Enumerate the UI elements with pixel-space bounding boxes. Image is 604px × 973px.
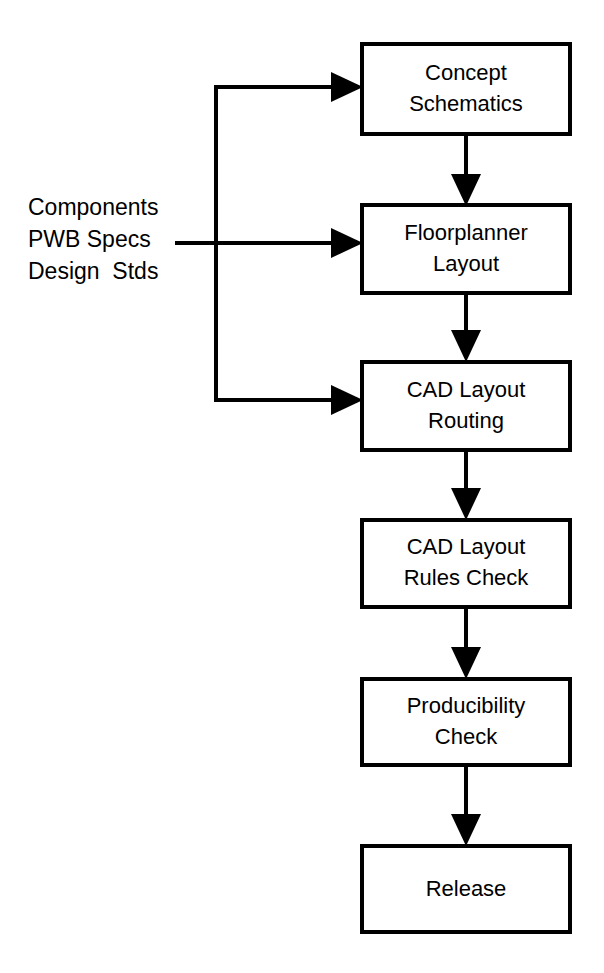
node-concept-schematics-line-2: Schematics bbox=[409, 91, 523, 116]
node-cad-layout-routing[interactable]: CAD Layout Routing bbox=[362, 362, 570, 450]
node-cad-layout-rules-check-line-2: Rules Check bbox=[404, 565, 530, 590]
node-floorplanner-layout-line-1: Floorplanner bbox=[404, 220, 528, 245]
flowchart-diagram: Components PWB Specs Design Stds bbox=[0, 0, 604, 973]
node-cad-layout-routing-box[interactable] bbox=[362, 362, 570, 450]
node-cad-layout-rules-check-line-1: CAD Layout bbox=[407, 534, 526, 559]
node-floorplanner-layout-line-2: Layout bbox=[433, 251, 499, 276]
input-label-line-1: Components bbox=[28, 194, 158, 220]
arrowhead-rules-check-to-producibility bbox=[451, 647, 481, 679]
input-label-line-2: PWB Specs bbox=[28, 226, 151, 252]
node-cad-layout-rules-check[interactable]: CAD Layout Rules Check bbox=[362, 520, 570, 607]
design-inputs-label: Components PWB Specs Design Stds bbox=[28, 194, 158, 284]
node-producibility-check-line-1: Producibility bbox=[407, 693, 526, 718]
node-floorplanner-layout-box[interactable] bbox=[362, 205, 570, 293]
node-release[interactable]: Release bbox=[362, 846, 570, 932]
flowchart-canvas: Components PWB Specs Design Stds bbox=[0, 0, 604, 973]
arrowhead-producibility-to-release bbox=[451, 814, 481, 846]
arrowhead-inputs-to-concept-schematics bbox=[331, 72, 363, 102]
arrowhead-floorplanner-to-routing bbox=[451, 330, 481, 362]
arrowhead-inputs-to-cad-layout-routing bbox=[331, 385, 363, 415]
node-cad-layout-routing-line-2: Routing bbox=[428, 408, 504, 433]
node-producibility-check-line-2: Check bbox=[435, 724, 498, 749]
arrowhead-concept-to-floorplanner bbox=[451, 174, 481, 206]
node-concept-schematics[interactable]: Concept Schematics bbox=[362, 44, 570, 134]
node-concept-schematics-line-1: Concept bbox=[425, 60, 507, 85]
input-label-line-3: Design Stds bbox=[28, 258, 158, 284]
node-floorplanner-layout[interactable]: Floorplanner Layout bbox=[362, 205, 570, 293]
edge-inputs-fanout bbox=[175, 72, 363, 415]
node-cad-layout-routing-line-1: CAD Layout bbox=[407, 377, 526, 402]
arrowhead-inputs-to-floorplanner-layout bbox=[331, 228, 363, 258]
arrowhead-routing-to-rules-check bbox=[451, 488, 481, 520]
node-producibility-check[interactable]: Producibility Check bbox=[362, 679, 570, 765]
node-concept-schematics-box[interactable] bbox=[362, 44, 570, 134]
node-release-line-1: Release bbox=[426, 876, 507, 901]
